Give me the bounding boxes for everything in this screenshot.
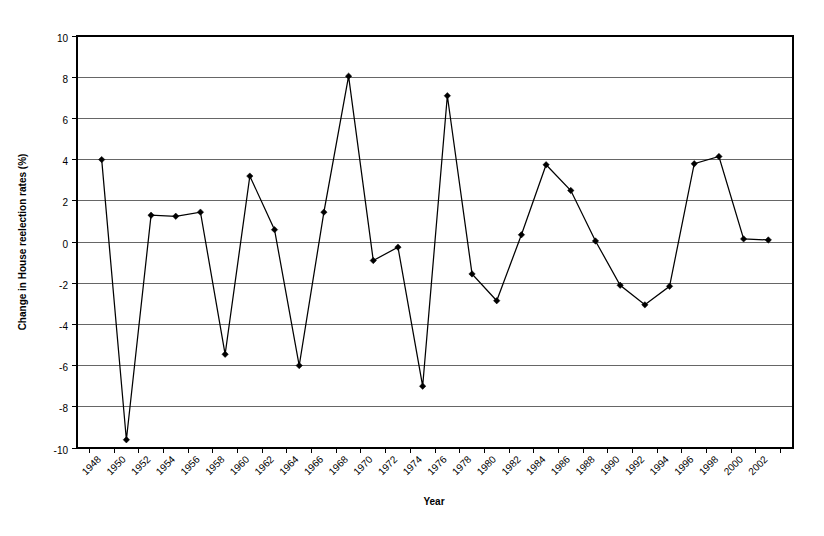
y-tick-label: 2 [62, 197, 68, 208]
data-series-markers [98, 73, 771, 443]
x-tick-label: 1974 [401, 453, 425, 477]
x-tick-label: 2000 [722, 453, 746, 477]
x-axis-ticks [89, 448, 780, 453]
x-tick-label: 1952 [129, 453, 153, 477]
x-tick-label: 1992 [623, 453, 647, 477]
x-tick-label: 1988 [573, 453, 597, 477]
x-tick-label: 1968 [326, 453, 350, 477]
data-series-line [102, 76, 769, 440]
x-axis-title: Year [423, 496, 444, 507]
x-tick-label: 1982 [499, 453, 523, 477]
x-tick-label: 1960 [228, 453, 252, 477]
y-axis-tick-labels: -10-8-6-4-20246810 [54, 33, 69, 456]
x-tick-label: 1990 [598, 453, 622, 477]
data-point-marker [691, 161, 697, 167]
x-tick-label: 1962 [252, 453, 276, 477]
y-axis-title: Change in House reelection rates (%) [17, 154, 28, 331]
x-tick-label: 1976 [425, 453, 449, 477]
data-point-marker [197, 209, 203, 215]
x-tick-label: 1978 [450, 453, 474, 477]
data-point-marker [222, 351, 228, 357]
data-point-marker [395, 244, 401, 250]
x-tick-label: 1972 [376, 453, 400, 477]
y-tick-label: -10 [54, 445, 69, 456]
y-tick-label: 8 [62, 74, 68, 85]
y-tick-label: 10 [57, 33, 69, 44]
data-point-marker [592, 238, 598, 244]
series-polyline [102, 76, 769, 440]
data-point-marker [271, 226, 277, 232]
y-tick-label: -8 [59, 403, 68, 414]
x-tick-label: 1948 [80, 453, 104, 477]
x-tick-label: 2002 [746, 453, 770, 477]
y-tick-label: 6 [62, 115, 68, 126]
data-point-marker [296, 362, 302, 368]
data-point-marker [370, 257, 376, 263]
x-tick-label: 1950 [104, 453, 128, 477]
x-tick-label: 1986 [549, 453, 573, 477]
x-axis-tick-labels: 1948195019521954195619581960196219641966… [80, 453, 770, 477]
x-tick-label: 1958 [203, 453, 227, 477]
y-tick-label: -4 [59, 321, 68, 332]
y-tick-label: 4 [62, 156, 68, 167]
x-tick-label: 1980 [475, 453, 499, 477]
data-point-marker [740, 236, 746, 242]
y-tick-label: 0 [62, 239, 68, 250]
data-point-marker [345, 73, 351, 79]
x-tick-label: 1956 [178, 453, 202, 477]
x-tick-label: 1994 [647, 453, 671, 477]
data-point-marker [518, 232, 524, 238]
data-point-marker [716, 153, 722, 159]
data-point-marker [98, 156, 104, 162]
x-tick-label: 1966 [302, 453, 326, 477]
data-point-marker [444, 93, 450, 99]
chart-container: -10-8-6-4-20246810 194819501952195419561… [0, 0, 824, 536]
line-chart: -10-8-6-4-20246810 194819501952195419561… [0, 0, 824, 536]
x-tick-label: 1970 [351, 453, 375, 477]
x-tick-label: 1996 [672, 453, 696, 477]
y-tick-label: -6 [59, 362, 68, 373]
data-point-marker [148, 212, 154, 218]
x-tick-label: 1998 [697, 453, 721, 477]
data-point-marker [419, 383, 425, 389]
x-tick-label: 1964 [277, 453, 301, 477]
x-tick-label: 1954 [154, 453, 178, 477]
data-point-marker [321, 209, 327, 215]
y-tick-label: -2 [59, 280, 68, 291]
data-point-marker [173, 213, 179, 219]
data-point-marker [247, 173, 253, 179]
data-point-marker [123, 437, 129, 443]
x-tick-label: 1984 [524, 453, 548, 477]
